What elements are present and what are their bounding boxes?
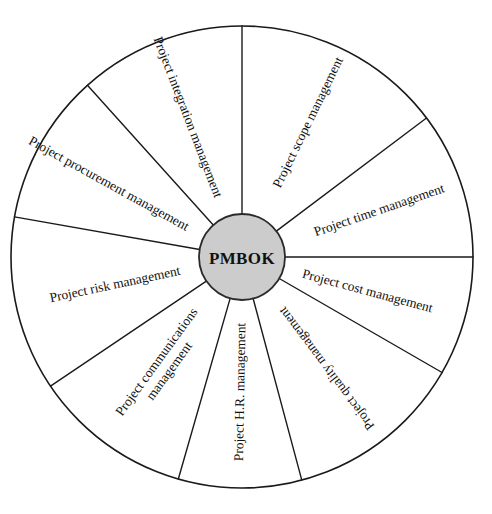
pmbok-wheel-diagram: PMBOK Project integration managementProj…	[0, 0, 492, 514]
sector-label-hr: Project H.R. management	[231, 322, 248, 461]
sector-label-text: Project H.R. management	[231, 322, 248, 461]
wheel-canvas: PMBOK Project integration managementProj…	[0, 0, 492, 514]
pmbok-hub-label: PMBOK	[209, 249, 276, 268]
